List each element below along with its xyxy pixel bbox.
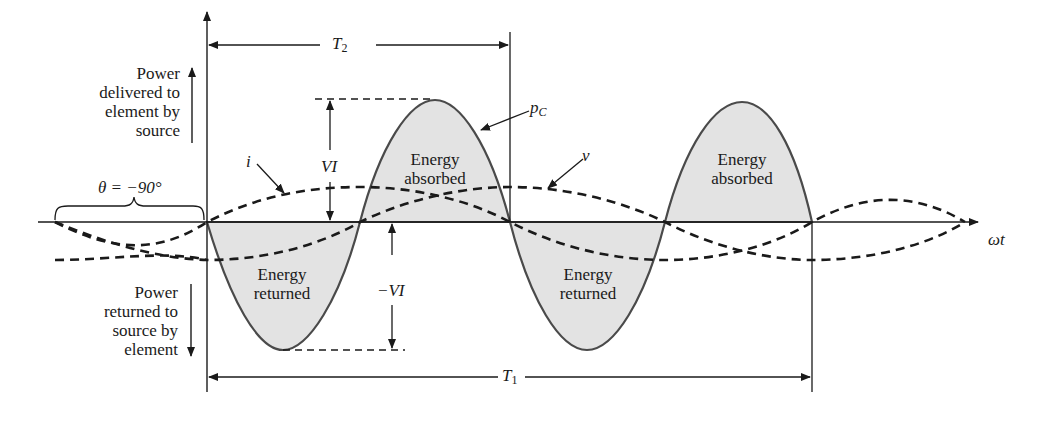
current-label: i — [246, 152, 251, 171]
voltage-label: v — [582, 146, 590, 165]
peak-positive-label: VI — [319, 157, 339, 176]
power-returned-label: Power returned to source by element — [70, 283, 178, 359]
theta-label: θ = −90° — [98, 178, 162, 197]
energy-absorbed-label-2: Energy absorbed — [702, 150, 782, 188]
period-t1-label: T1 — [502, 366, 517, 390]
power-delivered-label: Power delivered to element by source — [80, 64, 180, 140]
energy-absorbed-label-1: Energy absorbed — [395, 150, 475, 188]
x-axis-label: ωt — [988, 230, 1005, 249]
energy-returned-label-1: Energy returned — [242, 265, 322, 303]
power-curve-label: pC — [530, 98, 547, 122]
period-t2-label: T2 — [332, 34, 347, 58]
energy-returned-label-2: Energy returned — [548, 265, 628, 303]
peak-negative-label: −VI — [375, 281, 407, 300]
